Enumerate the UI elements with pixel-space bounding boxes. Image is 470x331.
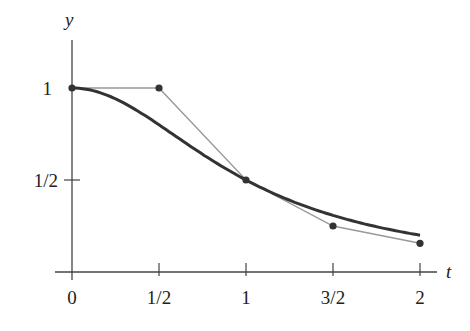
x-tick-label: 0 [67,287,77,308]
x-ticks: 01/213/22 [67,263,425,308]
y-tick-label: 1 [43,78,53,99]
x-tick-label: 2 [415,287,425,308]
data-point [242,176,249,183]
data-point [329,222,336,229]
x-tick-label: 1/2 [147,287,171,308]
euler-points [68,84,423,246]
exact-curve [72,88,420,235]
x-tick-label: 3/2 [321,287,345,308]
y-axis-label: y [63,9,74,30]
y-tick-label: 1/2 [34,170,58,191]
y-ticks: 1/21 [34,78,80,191]
chart: 01/213/22 1/21 t y [0,0,470,331]
data-point [68,84,75,91]
x-tick-label: 1 [241,287,251,308]
euler-polyline [72,88,420,243]
x-axis-label: t [446,261,452,282]
data-point [416,240,423,247]
data-point [155,84,162,91]
